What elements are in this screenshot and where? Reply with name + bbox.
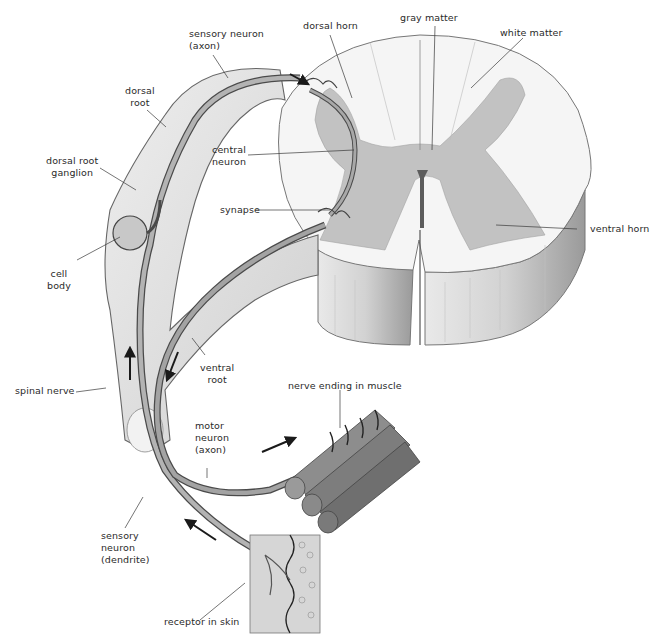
- label-line: motor: [195, 420, 229, 432]
- label-motor-neuron-axon: motor neuron (axon): [195, 420, 229, 456]
- label-synapse: synapse: [220, 204, 260, 216]
- label-line: sensory: [101, 530, 149, 542]
- reflex-arc-diagram: sensory neuron (axon) dorsal horn gray m…: [0, 0, 661, 642]
- label-ventral-horn: ventral horn: [590, 223, 649, 235]
- label-line: root: [200, 374, 234, 386]
- label-line: dorsal root: [46, 155, 98, 167]
- label-sensory-neuron-dendrite: sensory neuron (dendrite): [101, 530, 149, 566]
- label-dorsal-horn: dorsal horn: [303, 20, 358, 32]
- label-line: central: [212, 144, 246, 156]
- label-line: dorsal: [125, 85, 155, 97]
- muscle-fibers: [285, 410, 420, 533]
- label-cell-body: cell body: [47, 268, 71, 292]
- label-spinal-nerve: spinal nerve: [15, 385, 75, 397]
- label-white-matter: white matter: [500, 27, 563, 39]
- label-line: neuron: [195, 432, 229, 444]
- label-line: (axon): [195, 444, 229, 456]
- label-line: neuron: [212, 156, 246, 168]
- diagram-artwork: [0, 0, 661, 642]
- label-line: body: [47, 280, 71, 292]
- label-line: (dendrite): [101, 554, 149, 566]
- label-line: ganglion: [46, 167, 98, 179]
- label-line: cell: [47, 268, 71, 280]
- label-dorsal-root-ganglion: dorsal root ganglion: [46, 155, 98, 179]
- label-line: root: [125, 97, 155, 109]
- label-gray-matter: gray matter: [400, 12, 458, 24]
- motor-outward-arrow: [262, 438, 295, 452]
- label-line: (axon): [189, 40, 264, 52]
- label-sensory-neuron-axon: sensory neuron (axon): [189, 28, 264, 52]
- label-ventral-root: ventral root: [200, 362, 234, 386]
- label-nerve-ending-in-muscle: nerve ending in muscle: [288, 380, 402, 392]
- label-central-neuron: central neuron: [212, 144, 246, 168]
- label-receptor-in-skin: receptor in skin: [164, 616, 240, 628]
- label-line: sensory neuron: [189, 28, 264, 40]
- label-line: neuron: [101, 542, 149, 554]
- label-line: ventral: [200, 362, 234, 374]
- label-dorsal-root: dorsal root: [125, 85, 155, 109]
- skin-receptor: [250, 535, 320, 633]
